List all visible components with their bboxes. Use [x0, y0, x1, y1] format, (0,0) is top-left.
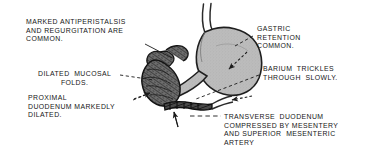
transverse-duodenum-part	[164, 96, 233, 110]
label-barium-trickles: BARIUM TRICKLES THROUGH SLOWLY.	[263, 65, 338, 82]
leader-antiperistalsis-line	[145, 44, 172, 58]
arrow-proximal-duodenum-line	[134, 93, 150, 99]
label-dilated-mucosal-folds: DILATED MUCOSAL FOLDS.	[38, 70, 111, 87]
duodenal-bulb-part	[147, 46, 188, 69]
arrow-transverse-duodenum-line	[174, 112, 178, 127]
leader-barium-trickles-line	[196, 75, 259, 99]
arrow-gastric-retention-line	[229, 52, 247, 69]
arrow-barium-trickles-line	[232, 96, 252, 100]
label-proximal-duodenum: PROXIMAL DUODENUM MARKEDLY DILATED.	[28, 94, 115, 120]
proximal-duodenum-part	[142, 60, 180, 106]
leader-dilated-mucosal-folds-line	[120, 75, 154, 80]
pylorus-part	[158, 71, 207, 103]
label-antiperistalsis: MARKED ANTIPERISTALSIS AND REGURGITATION…	[26, 18, 126, 44]
leader-transverse-duodenum-riser	[174, 112, 178, 127]
label-transverse-duodenum: TRANSVERSE DUODENUM COMPRESSED BY MESENT…	[224, 113, 338, 147]
esophagus-part	[202, 4, 212, 34]
leader-gastric-retention-line	[235, 36, 253, 46]
medical-illustration-figure: MARKED ANTIPERISTALSIS AND REGURGITATION…	[0, 0, 376, 165]
stomach-part	[196, 27, 261, 95]
leader-proximal-duodenum-line	[133, 93, 150, 100]
label-gastric-retention: GASTRIC RETENTION COMMON.	[257, 25, 301, 51]
